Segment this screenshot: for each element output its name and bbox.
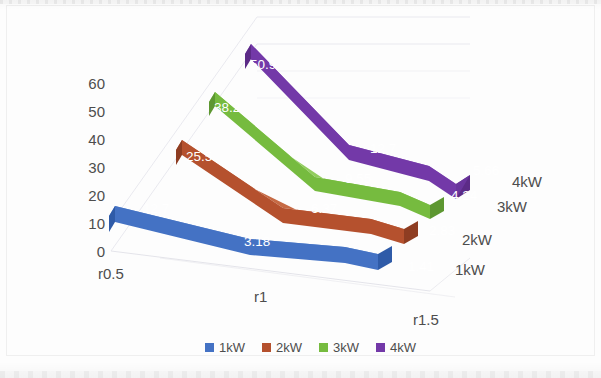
scan-bottom-edge (0, 371, 601, 378)
y-tick-0: 0 (97, 243, 105, 260)
category-label-r05: r0.5 (98, 265, 124, 282)
y-tick-10: 10 (88, 215, 105, 232)
legend-item-4kW[interactable]: 4kW (376, 340, 417, 355)
data-label-1kW-r05: 12.7 (143, 201, 169, 216)
series-axis-label-4kW: 4kW (512, 173, 543, 190)
data-label-1kW-r15: 1.41 (408, 259, 434, 274)
data-label-2kW-r1: 6.37 (311, 201, 337, 216)
data-label-3kW-r15: 4.24 (451, 188, 478, 203)
data-label-3kW-r1: 9.55 (345, 171, 371, 186)
chart-legend: 1kW 2kW 3kW 4kW (205, 340, 417, 355)
category-label-r15: r1.5 (413, 311, 439, 328)
legend-label-4kW: 4kW (390, 340, 417, 355)
y-tick-20: 20 (88, 187, 105, 204)
series-ribbon-3kW (209, 92, 444, 219)
data-label-4kW-r05: 50.9 (250, 57, 276, 72)
data-label-4kW-r15: 5.66 (473, 163, 499, 178)
category-label-r1: r1 (254, 288, 267, 305)
legend-swatch-2kW (262, 343, 271, 352)
data-label-4kW-r1: 12.7 (370, 141, 396, 156)
legend-label-3kW: 3kW (333, 340, 360, 355)
y-tick-50: 50 (88, 103, 105, 120)
legend-swatch-4kW (376, 343, 385, 352)
category-axis-labels: r0.5 r1 r1.5 (98, 265, 439, 328)
data-label-2kW-r05: 25.5 (186, 149, 212, 164)
series-axis-label-2kW: 2kW (462, 231, 493, 248)
chart-container: 60 50 40 30 20 10 0 r0.5 r1 r1.5 1kW 2kW… (0, 0, 601, 378)
series-axis-label-1kW: 1kW (455, 261, 486, 278)
legend-label-1kW: 1kW (219, 340, 246, 355)
y-tick-30: 30 (88, 159, 105, 176)
legend-label-2kW: 2kW (276, 340, 303, 355)
y-tick-60: 60 (88, 75, 105, 92)
legend-item-2kW[interactable]: 2kW (262, 340, 303, 355)
data-label-2kW-r15: 2.83 (429, 223, 455, 238)
y-axis-labels: 60 50 40 30 20 10 0 (88, 75, 105, 260)
legend-swatch-3kW (319, 343, 328, 352)
data-label-3kW-r05: 38.2 (214, 100, 240, 115)
legend-item-3kW[interactable]: 3kW (319, 340, 360, 355)
scan-top-edge (0, 0, 601, 4)
y-tick-40: 40 (88, 131, 105, 148)
legend-item-1kW[interactable]: 1kW (205, 340, 246, 355)
series-axis-label-3kW: 3kW (497, 198, 528, 215)
legend-swatch-1kW (205, 343, 214, 352)
three-d-area-chart: 60 50 40 30 20 10 0 r0.5 r1 r1.5 1kW 2kW… (0, 0, 601, 378)
data-label-1kW-r1: 3.18 (244, 234, 270, 249)
